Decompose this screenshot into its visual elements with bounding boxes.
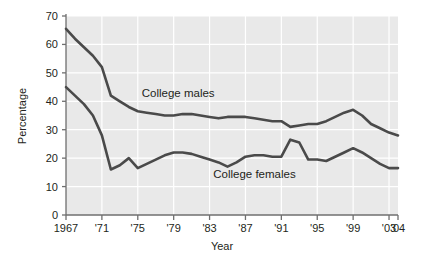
x-tick-label: '87 — [238, 222, 252, 234]
x-axis-title: Year — [211, 240, 234, 252]
chart-container: 010203040506070 1967'71'75'79'83'87'91'9… — [0, 0, 424, 262]
y-tick-label: 0 — [52, 209, 58, 221]
y-tick-label: 10 — [46, 181, 58, 193]
annotation-college-males: College males — [142, 87, 215, 99]
x-tick-label: '91 — [274, 222, 288, 234]
x-tick-label: '04 — [391, 222, 405, 234]
y-tick-label: 70 — [46, 10, 58, 22]
x-tick-label: '83 — [202, 222, 216, 234]
y-tick-label: 30 — [46, 124, 58, 136]
x-tick-label: '75 — [131, 222, 145, 234]
x-tick-label: '79 — [167, 222, 181, 234]
x-tick-label: 1967 — [54, 222, 78, 234]
x-tick-label: '71 — [95, 222, 109, 234]
y-tick-label: 20 — [46, 152, 58, 164]
plot-area-background — [66, 16, 398, 215]
line-chart: 010203040506070 1967'71'75'79'83'87'91'9… — [0, 0, 424, 262]
annotation-college-females: College females — [213, 168, 296, 180]
y-axis-title: Percentage — [16, 88, 28, 144]
y-tick-label: 60 — [46, 38, 58, 50]
y-tick-label: 40 — [46, 95, 58, 107]
y-tick-label: 50 — [46, 67, 58, 79]
x-tick-label: '99 — [346, 222, 360, 234]
x-tick-label: '95 — [310, 222, 324, 234]
